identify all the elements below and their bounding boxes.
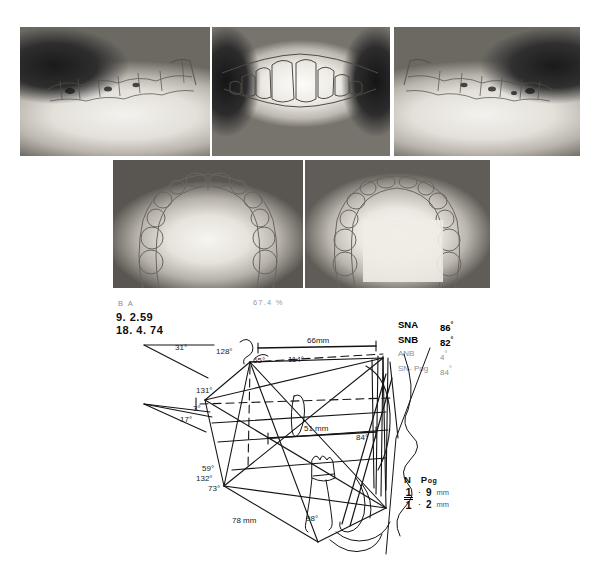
annotation-128: 128° — [216, 347, 233, 356]
right-lateral-tooth-outlines — [394, 27, 580, 156]
annotation-73: 73° — [208, 484, 220, 493]
left-lateral-tooth-outlines — [20, 27, 210, 156]
maxillary-arch-outlines — [113, 160, 303, 288]
annotation-78mm: 78 mm — [232, 516, 257, 525]
annotation-3: 3° — [193, 404, 201, 413]
photo-maxillary-occlusal-view — [113, 160, 303, 288]
photo-frontal-occlusion — [212, 27, 390, 156]
annotation-114: 114° — [288, 355, 304, 364]
photo-mandibular-occlusal-view — [305, 160, 490, 288]
annotation-132: 132° — [196, 474, 213, 483]
annotation-51mm: 51 mm — [304, 424, 329, 433]
soft-tissue-profile — [386, 348, 430, 554]
mandibular-arch-outlines — [305, 160, 490, 288]
frontal-tooth-outlines — [212, 27, 390, 156]
annotation-59: 59° — [202, 464, 214, 473]
annotation-66mm: 66mm — [307, 336, 330, 345]
angle-wedge-3-17 — [144, 404, 212, 432]
tracing-frame — [205, 358, 388, 542]
annotation-84: 84° — [356, 433, 368, 442]
annotation-65: 65° — [253, 356, 265, 365]
photo-left-lateral-occlusion — [20, 27, 210, 156]
photo-right-lateral-occlusion — [394, 27, 580, 156]
annotation-131: 131° — [196, 386, 213, 395]
annotation-31: 31° — [175, 343, 187, 352]
annotation-17: 17° — [180, 415, 192, 424]
annotation-98: 98° — [306, 514, 318, 523]
ba-label: B A — [118, 299, 134, 308]
percent-label: 67.4 % — [253, 298, 284, 307]
cephalometric-tracing: 31° 3° 17° 128° 65° 114° 66mm 131° 51 mm… — [0, 318, 600, 575]
